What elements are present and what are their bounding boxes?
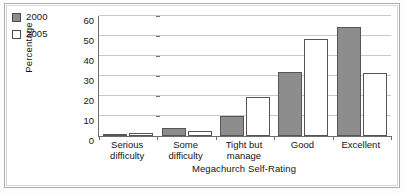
x-category-label-line: difficulty <box>98 150 156 161</box>
x-category-label: Seriousdifficulty <box>98 139 156 161</box>
x-category-label-line: Tight but <box>215 139 273 150</box>
bar-2000-serious-difficulty <box>103 134 127 136</box>
x-category-label: Somedifficulty <box>156 139 214 161</box>
y-tick-label: 0 <box>62 136 94 146</box>
y-tick-label: 40 <box>62 56 94 66</box>
bar-2000-some-difficulty <box>162 128 186 136</box>
y-tick-label: 30 <box>62 76 94 86</box>
y-axis-tick-labels: 0102030405060 <box>62 10 94 142</box>
bar-2005-excellent <box>363 73 387 136</box>
y-tick-label: 10 <box>62 116 94 126</box>
x-category-label-line: Excellent <box>332 139 390 150</box>
x-category-label-line: difficulty <box>156 150 214 161</box>
plot-area <box>98 16 391 137</box>
y-axis-title: Percentage <box>23 6 34 90</box>
legend-swatch-empty-square-icon <box>12 30 21 39</box>
chart-figure: 2000 2005 Percentage 0102030405060 Serio… <box>0 0 405 194</box>
bar-2005-some-difficulty <box>188 131 212 136</box>
x-category-label-line: Serious <box>98 139 156 150</box>
y-tick-label: 20 <box>62 96 94 106</box>
x-axis-tick-labels: SeriousdifficultySomedifficultyTight but… <box>98 139 390 163</box>
x-category-label-line: Some <box>156 139 214 150</box>
x-category-label-line: Good <box>273 139 331 150</box>
bar-2000-excellent <box>337 27 361 136</box>
bar-2005-serious-difficulty <box>129 133 153 136</box>
bar-2000-tight-but-manage <box>220 116 244 136</box>
y-tick-label: 50 <box>62 36 94 46</box>
x-category-label: Good <box>273 139 331 150</box>
y-tick-label: 60 <box>62 16 94 26</box>
x-category-label: Tight butmanage <box>215 139 273 161</box>
legend-swatch-filled-square-icon <box>12 13 21 22</box>
bar-2000-good <box>278 72 302 136</box>
x-axis-title: Megachurch Self-Rating <box>98 163 390 174</box>
x-category-label: Excellent <box>332 139 390 150</box>
bar-2005-good <box>304 39 328 136</box>
x-category-label-line: manage <box>215 150 273 161</box>
bar-2005-tight-but-manage <box>246 97 270 136</box>
gridline <box>99 15 391 16</box>
x-tick-mark <box>391 136 392 140</box>
